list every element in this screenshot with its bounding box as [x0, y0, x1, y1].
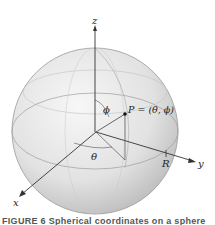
- radius-label: R: [161, 158, 170, 169]
- x-axis-label: x: [13, 197, 19, 208]
- point-p-marker: [123, 112, 127, 116]
- y-axis-arrow-icon: [188, 158, 196, 163]
- point-p-label: P = (θ, ϕ): [127, 104, 174, 115]
- phi-label: ϕ: [103, 104, 110, 115]
- theta-label: θ: [91, 151, 97, 162]
- spherical-coordinates-diagram: z y x ϕ θ P = (θ, ϕ) R: [0, 0, 215, 225]
- figure-caption: FIGURE 6 Spherical coordinates on a sphe…: [2, 216, 215, 225]
- y-axis-label: y: [197, 158, 204, 169]
- z-axis-label: z: [91, 15, 98, 26]
